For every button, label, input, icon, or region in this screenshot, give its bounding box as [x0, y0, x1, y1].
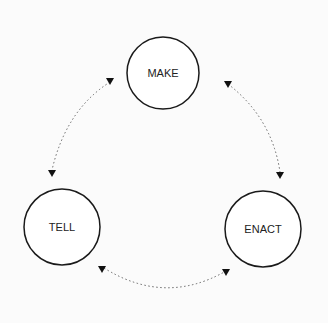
node-make: MAKE: [127, 37, 199, 109]
edge-enact-tell: [104, 268, 226, 288]
arrowhead-tell-top-icon: [48, 170, 56, 177]
edge-tell-make: [52, 82, 110, 170]
node-tell: TELL: [24, 189, 100, 265]
node-tell-label: TELL: [49, 221, 75, 233]
node-enact: ENACT: [225, 191, 301, 267]
node-enact-label: ENACT: [244, 223, 282, 235]
arrowhead-tell-bottom-icon: [98, 266, 106, 273]
diagram-svg: MAKE ENACT TELL: [0, 0, 328, 323]
arrowhead-make-left-icon: [106, 78, 114, 85]
node-make-label: MAKE: [147, 67, 178, 79]
arrowhead-make-right-icon: [224, 81, 232, 88]
cycle-diagram: MAKE ENACT TELL: [0, 0, 328, 323]
arrowhead-enact-top-icon: [276, 172, 284, 179]
arrowhead-enact-bottom-icon: [222, 269, 230, 276]
edge-make-enact: [228, 84, 280, 172]
